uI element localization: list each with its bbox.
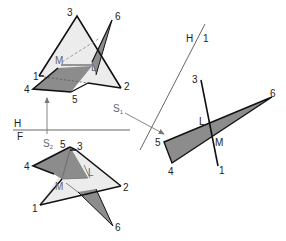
aux-point-l-label: L [199,116,205,127]
front-vertex-3-label: 3 [77,141,83,152]
fold-label-h1-h: H [186,33,193,44]
top-point-m-label: M [55,55,63,66]
intersecting-planes-diagram: 1 2 3 4 5 6 M L H F S2 S1 H 1 [0,0,286,241]
aux-vertex-5-label: 5 [155,137,161,148]
front-vertex-2-label: 2 [123,182,129,193]
fold-label-h: H [14,118,21,129]
fold-label-h1-1: 1 [203,33,209,44]
top-vertex-3-label: 3 [67,7,73,18]
s2-label: S2 [43,138,54,150]
aux-vertex-1-label: 1 [219,165,225,176]
front-point-m-label: M [55,181,63,192]
s1-label: S1 [113,103,124,115]
front-view: 1 2 3 4 5 6 M L [24,139,129,233]
top-point-l-label: L [91,62,97,73]
aux-vertex-3-label: 3 [192,74,198,85]
top-vertex-1-label: 1 [33,71,39,82]
top-vertex-6-label: 6 [115,11,121,22]
fold-line-hf: H F [13,118,130,142]
top-view: 1 2 3 4 5 6 M L [24,7,130,105]
front-vertex-4-label: 4 [24,161,30,172]
front-vertex-6-label: 6 [115,222,121,233]
top-vertex-2-label: 2 [124,81,130,92]
aux-vertex-4-label: 4 [168,166,174,177]
aux-vertex-6-label: 6 [270,88,276,99]
sight-arrow-s2: S2 [43,98,54,150]
plane-456-aux [164,97,272,163]
top-vertex-4-label: 4 [24,84,30,95]
front-vertex-5-label: 5 [60,139,66,150]
auxiliary-view: 3 1 4 5 6 L M [155,74,276,177]
front-point-l-label: L [88,167,94,178]
top-vertex-5-label: 5 [72,94,78,105]
fold-label-f: F [17,131,23,142]
front-vertex-1-label: 1 [32,203,38,214]
aux-point-m-label: M [215,137,223,148]
